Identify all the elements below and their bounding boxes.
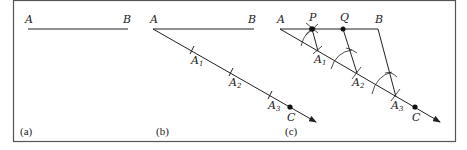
label-p: P: [308, 11, 317, 24]
label-c: C: [412, 111, 421, 124]
label-a: A: [149, 13, 158, 26]
label-q: Q: [340, 11, 349, 24]
arc-b-construction: [372, 72, 392, 94]
line-b-a3: [378, 29, 396, 97]
diagram-canvas: A B (a) A B A1 A2 A3 C (b): [0, 0, 467, 150]
label-b: B: [122, 13, 131, 26]
panel-b: A B A1 A2 A3 C (b): [149, 13, 316, 138]
panel-a: A B (a): [20, 13, 131, 138]
caption-b: (b): [156, 125, 169, 138]
point-q: [341, 27, 346, 32]
label-c: C: [287, 111, 296, 124]
point-p: [309, 26, 315, 32]
point-c: [412, 104, 417, 109]
arc-q-construction: [331, 50, 352, 69]
caption-c: (c): [285, 125, 298, 138]
panel-c: A P Q B A1 A2 A3 C (c): [276, 11, 440, 138]
label-a: A: [24, 13, 33, 26]
label-a2: A2: [351, 76, 365, 90]
point-c: [287, 104, 292, 109]
label-b: B: [374, 13, 383, 26]
label-a3: A3: [390, 99, 404, 113]
label-b: B: [247, 13, 256, 26]
label-a: A: [276, 13, 285, 26]
caption-a: (a): [20, 125, 33, 138]
